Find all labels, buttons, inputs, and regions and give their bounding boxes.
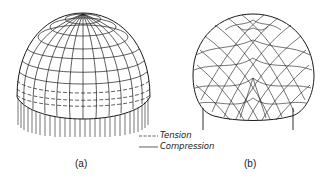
legend: [139, 136, 158, 147]
dome-b: [193, 14, 314, 121]
legend-tension-label: Tension: [160, 130, 191, 140]
legend-compression-label: Compression: [160, 141, 214, 151]
dome-a: [17, 13, 150, 119]
panel-a-label: (a): [75, 158, 87, 169]
dome-stress-figure: [0, 0, 329, 180]
panel-b-label: (b): [244, 158, 256, 169]
